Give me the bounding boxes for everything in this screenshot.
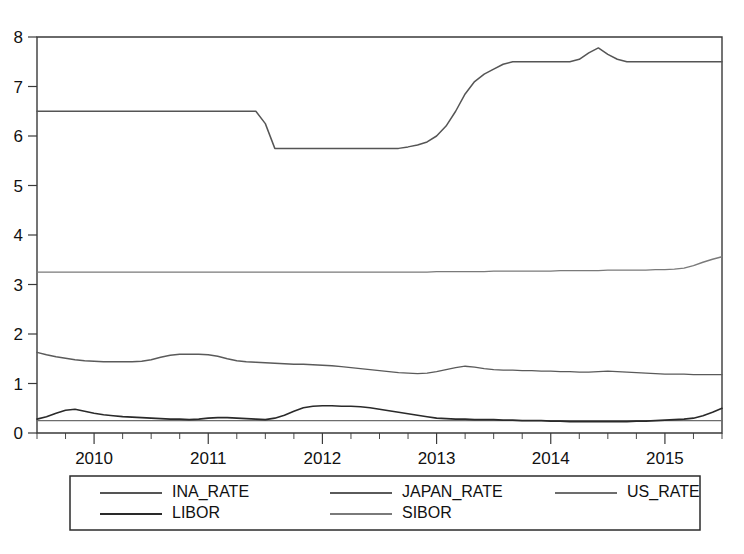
y-tick-label: 1 <box>14 375 23 394</box>
y-tick-label: 0 <box>14 424 23 443</box>
y-tick-label: 7 <box>14 78 23 97</box>
chart-container: 012345678 201020112012201320142015 INA_R… <box>0 0 744 554</box>
y-tick-label: 5 <box>14 177 23 196</box>
y-tick-label: 4 <box>14 226 23 245</box>
line-chart: 012345678 201020112012201320142015 INA_R… <box>0 0 744 554</box>
y-tick-label: 8 <box>14 28 23 47</box>
y-tick-label: 6 <box>14 127 23 146</box>
y-tick-label: 3 <box>14 276 23 295</box>
legend-label: US_RATE <box>627 483 700 501</box>
x-tick-label: 2010 <box>75 449 113 468</box>
y-tick-label: 2 <box>14 325 23 344</box>
x-tick-label: 2013 <box>418 449 456 468</box>
legend-label: LIBOR <box>172 504 220 521</box>
x-tick-label: 2014 <box>532 449 570 468</box>
y-axis-tick-labels: 012345678 <box>14 28 23 443</box>
legend-label: INA_RATE <box>172 483 249 501</box>
chart-background <box>0 0 744 554</box>
x-tick-label: 2012 <box>304 449 342 468</box>
x-tick-label: 2011 <box>190 449 227 468</box>
legend-label: SIBOR <box>402 504 452 521</box>
legend-label: JAPAN_RATE <box>402 483 503 501</box>
x-tick-label: 2015 <box>646 449 684 468</box>
